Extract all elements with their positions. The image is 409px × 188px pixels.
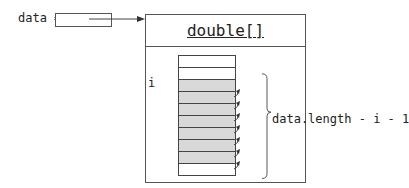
reference-arrow-icon [89, 16, 145, 22]
curly-brace-icon [262, 74, 271, 179]
shift-arrows-icon [234, 89, 240, 169]
